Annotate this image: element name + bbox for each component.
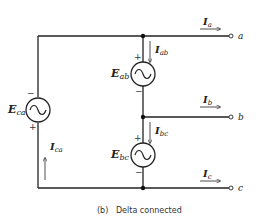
junction-dot-c: [141, 186, 145, 190]
current-bc-label: Ibc: [154, 125, 168, 138]
source-bc-label: Ebc: [110, 148, 130, 162]
current-b-label: Ib: [202, 94, 213, 107]
terminals: a b c: [229, 31, 244, 193]
source-bc-plus: +: [134, 133, 142, 143]
source-bc: + − Ebc: [110, 133, 155, 177]
delta-circuit-diagram: a b c − + Eca + − Eab + − Ebc Ia Ib Ic: [0, 0, 256, 221]
terminal-c-icon[interactable]: [229, 186, 233, 190]
current-ca-label: Ica: [49, 141, 63, 154]
source-bc-minus: −: [135, 167, 143, 177]
current-a-label: Ia: [202, 16, 212, 29]
source-ab-label: Eab: [110, 67, 129, 81]
source-ca: − + Eca: [7, 88, 50, 132]
terminal-c-label: c: [238, 183, 243, 193]
figure-caption: (b) Delta connected: [97, 206, 182, 215]
junction-dot-a: [141, 34, 145, 38]
current-ab-label: Iab: [154, 44, 169, 57]
source-ca-minus: −: [27, 88, 35, 98]
source-ca-label: Eca: [7, 103, 26, 117]
terminal-b-label: b: [238, 112, 244, 122]
source-ab-minus: −: [135, 86, 143, 96]
terminal-a-icon[interactable]: [229, 34, 233, 38]
terminal-b-icon[interactable]: [229, 115, 233, 119]
source-ab: + − Eab: [110, 52, 155, 96]
source-ab-plus: +: [134, 52, 142, 62]
terminal-a-label: a: [238, 31, 243, 41]
source-ca-plus: +: [29, 122, 37, 132]
junction-dot-b: [141, 115, 145, 119]
current-c-label: Ic: [202, 168, 212, 181]
